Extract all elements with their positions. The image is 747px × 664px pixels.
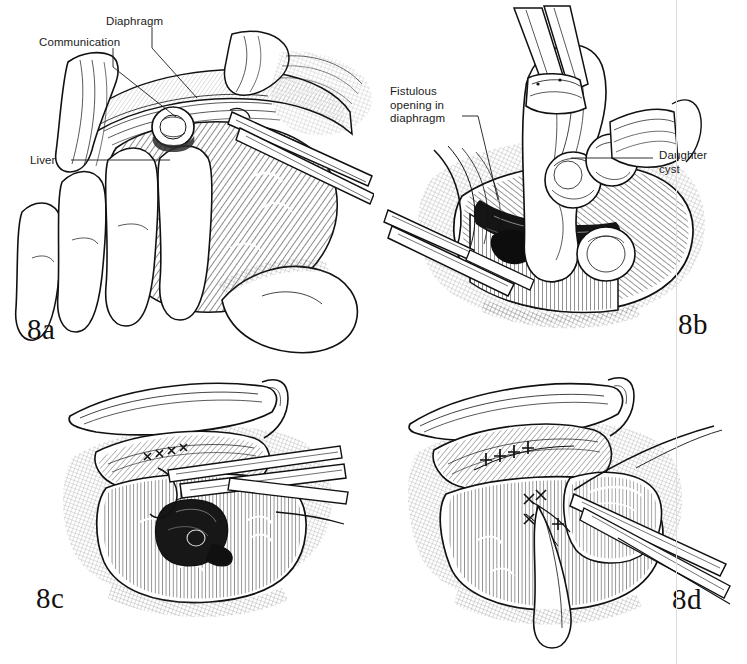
figure-page: Communication Diaphragm Liver Fistulous … <box>0 0 747 664</box>
figure-number-8c: 8c <box>36 582 64 615</box>
residual-cyst-cavity <box>156 500 233 566</box>
label-diaphragm: Diaphragm <box>106 15 163 29</box>
panel-8d <box>374 372 747 664</box>
label-fistulous-opening: Fistulous opening in diaphragm <box>390 85 445 126</box>
figure-number-8a: 8a <box>27 313 55 346</box>
panel-8a <box>0 0 374 360</box>
panel-8b <box>374 0 747 360</box>
panel-8d-illustration <box>374 372 747 664</box>
panel-8b-illustration <box>374 0 747 360</box>
label-daughter-cyst: Daughter cyst <box>659 149 707 176</box>
panel-8c-illustration <box>0 372 374 664</box>
label-communication: Communication <box>39 36 120 50</box>
scan-page-edge <box>676 0 677 664</box>
panel-8c <box>0 372 374 664</box>
panel-8a-illustration <box>0 0 374 360</box>
label-liver: Liver <box>30 154 55 168</box>
figure-number-8b: 8b <box>678 308 708 341</box>
cyst-communication-nodule <box>152 107 194 152</box>
surrounding-tissue-right <box>271 51 372 135</box>
